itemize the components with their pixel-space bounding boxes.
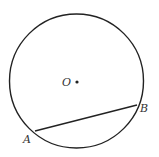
point-b-label: B [139, 102, 148, 115]
center-point [75, 80, 78, 83]
chord-ab [35, 105, 137, 131]
point-a-label: A [22, 133, 31, 146]
circle-chord-diagram: O A B [0, 0, 159, 157]
center-label: O [62, 76, 71, 89]
